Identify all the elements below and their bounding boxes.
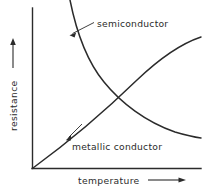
- x-axis-title: temperature: [78, 175, 140, 186]
- figure-container: semiconductor metallic conductor tempera…: [0, 0, 210, 191]
- semiconductor-label: semiconductor: [97, 18, 168, 29]
- metallic-conductor-arrowhead-icon: [66, 135, 71, 141]
- up-arrow-icon: [10, 38, 16, 45]
- right-arrow-icon: [179, 177, 187, 182]
- y-axis-title: resistance: [8, 80, 19, 131]
- metallic-conductor-label: metallic conductor: [72, 141, 162, 152]
- resistance-vs-temperature-chart: semiconductor metallic conductor tempera…: [0, 0, 210, 191]
